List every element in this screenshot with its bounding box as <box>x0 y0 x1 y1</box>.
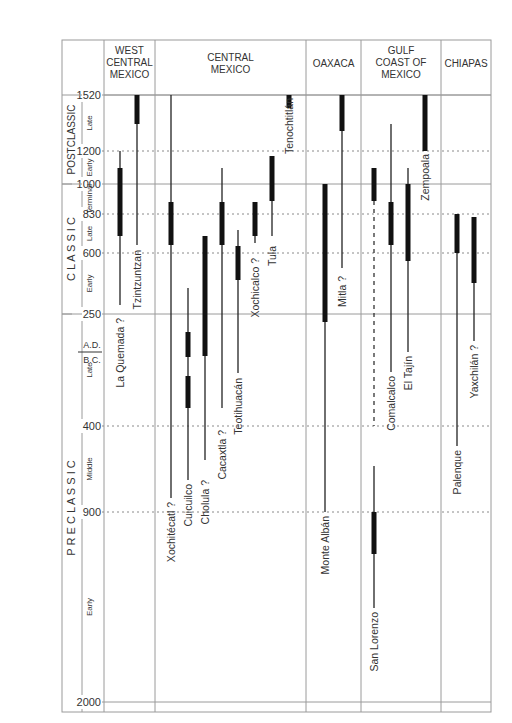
period-label: POSTCLASSIC <box>66 104 77 174</box>
region-header-label: OAXACA <box>313 58 355 69</box>
site-label: Tula <box>266 246 278 266</box>
region-header-label: CENTRAL <box>106 57 153 68</box>
site-peak-bar <box>270 156 275 201</box>
site-comalcalco: Comalcalco <box>385 124 397 431</box>
subperiod-label: Late <box>85 115 94 131</box>
site-label: Zempoala <box>419 154 431 201</box>
tick-label-400: 400 <box>83 420 101 432</box>
site-label: La Quemada ? <box>114 318 126 388</box>
site-zempoala: Zempoala <box>419 95 431 201</box>
site-label: Teotihuacán <box>232 378 244 435</box>
site-label: Monte Albán <box>319 516 331 575</box>
site-label: Comalcalco <box>385 376 397 431</box>
site-label: Xochicalco ? <box>249 258 261 318</box>
site-peak-bar <box>169 202 174 245</box>
site-el-taj-n: El Tajín <box>402 168 414 390</box>
site-peak-bar <box>253 202 258 236</box>
subperiod-label: Early <box>85 158 94 176</box>
region-headers: WESTCENTRALMEXICOCENTRALMEXICOOAXACAGULF… <box>106 45 488 80</box>
site-label: San Lorenzo <box>368 612 380 672</box>
site-tenochtitl-n: Tenochtitlán <box>283 95 295 154</box>
site-peak-bar <box>186 376 191 408</box>
site-label: Palenque <box>451 450 463 495</box>
site-label: Xochitécatl ? <box>165 502 177 562</box>
site-peak-bar <box>236 246 241 280</box>
site-peak-bar <box>186 332 191 357</box>
site-peak-bar <box>203 236 208 356</box>
site-palenque: Palenque <box>451 214 463 494</box>
site-label: Cholula ? <box>199 480 211 525</box>
site-teotihuac-n: Teotihuacán <box>232 230 244 435</box>
region-header-label: GULF <box>388 45 415 56</box>
site-label: Mitla ? <box>336 276 348 307</box>
site-label: Tenochtitlán <box>283 98 295 154</box>
site-peak-bar <box>118 168 123 236</box>
site-label: Yaxchilán ? <box>468 345 480 399</box>
site-xochit-catl: Xochitécatl ? <box>165 95 177 562</box>
mesoamerican-chronology-chart: 1520120010008306002504009002000A.D.B.C. … <box>0 0 512 723</box>
site-monte-alb-n: Monte Albán <box>319 184 331 574</box>
region-header-label: MEXICO <box>110 69 150 80</box>
subperiod-label: Late <box>85 362 94 378</box>
site-la-quemada: La Quemada ? <box>114 151 126 387</box>
tick-label-600: 600 <box>83 247 101 259</box>
subperiod-label: Early <box>85 274 94 292</box>
site-peak-bar <box>323 184 328 322</box>
site-label: Cacaxtla ? <box>216 430 228 480</box>
site-yaxchil-n: Yaxchilán ? <box>468 217 480 399</box>
site-san-lorenzo: San Lorenzo <box>368 168 380 672</box>
site-xochicalco: Xochicalco ? <box>249 202 261 318</box>
site-peak-bar <box>472 217 477 283</box>
tick-label-2000: 2000 <box>77 696 101 708</box>
site-peak-bar <box>455 214 460 253</box>
tick-label-900: 900 <box>83 506 101 518</box>
tick-label-1200: 1200 <box>77 145 101 157</box>
site-peak-bar <box>372 168 377 201</box>
site-cuicuilco: Cuicuilco <box>182 288 194 527</box>
site-peak-bar <box>423 95 428 151</box>
site-peak-bar <box>220 202 225 245</box>
site-peak-bar <box>135 95 140 124</box>
site-tula: Tula <box>266 156 278 266</box>
site-cacaxtla: Cacaxtla ? <box>216 168 228 480</box>
region-header-label: MEXICO <box>381 69 421 80</box>
subperiod-label: Early <box>85 598 94 616</box>
era-label-ad: A.D. <box>83 340 101 350</box>
site-label: Tzintzuntzan <box>131 250 143 310</box>
site-mitla: Mitla ? <box>336 95 348 307</box>
site-bars: La Quemada ?TzintzuntzanXochitécatl ?Cui… <box>114 95 480 672</box>
site-label: Cuicuilco <box>182 484 194 527</box>
site-tzintzuntzan: Tzintzuntzan <box>131 95 143 310</box>
region-header-label: CENTRAL <box>207 52 254 63</box>
region-header-label: COAST OF <box>376 57 427 68</box>
site-peak-bar <box>372 512 377 554</box>
region-header-label: MEXICO <box>211 64 251 75</box>
subperiod-label: Terminal <box>85 184 94 214</box>
region-header-label: WEST <box>115 45 144 56</box>
site-cholula: Cholula ? <box>199 236 211 524</box>
site-peak-bar <box>406 184 411 261</box>
tick-label-250: 250 <box>83 308 101 320</box>
period-label: C L A S S I C <box>65 217 77 281</box>
site-peak-bar <box>389 202 394 245</box>
period-label: P R E C L A S S I C <box>65 460 77 555</box>
chart-canvas: 1520120010008306002504009002000A.D.B.C. … <box>0 0 512 723</box>
site-label: El Tajín <box>402 356 414 390</box>
subperiod-label: Late <box>85 225 94 241</box>
subperiod-label: Middle <box>85 457 94 481</box>
site-peak-bar <box>340 95 345 131</box>
region-header-label: CHIAPAS <box>444 58 487 69</box>
